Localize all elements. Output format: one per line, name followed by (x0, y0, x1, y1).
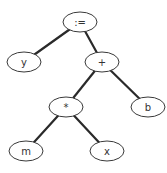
node-x: x (90, 141, 124, 161)
node-label: + (98, 57, 106, 68)
node-label: x (104, 146, 110, 157)
node-label: b (145, 102, 151, 113)
node-label: := (74, 17, 86, 28)
node-assign: := (63, 12, 97, 32)
node-plus: + (85, 52, 119, 72)
node-y: y (7, 52, 41, 72)
node-label: * (64, 102, 69, 113)
node-b: b (131, 97, 165, 117)
node-label: y (21, 57, 27, 68)
node-times: * (49, 97, 83, 117)
node-m: m (9, 141, 43, 161)
node-label: m (21, 146, 31, 157)
expression-tree: :=y+*bmx (0, 0, 167, 173)
